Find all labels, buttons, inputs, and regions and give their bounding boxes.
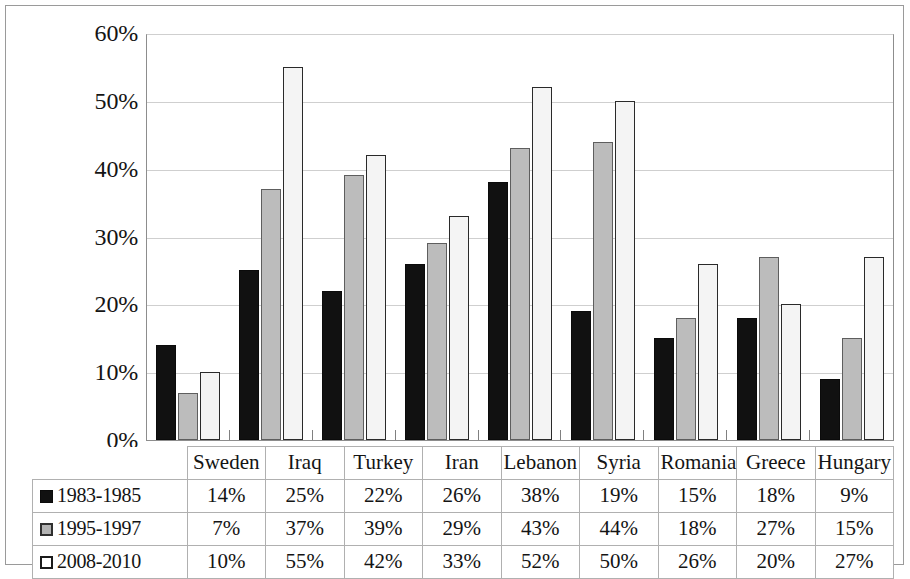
chart-figure: 60%50%40%30%20%10%0% SwedenIraqTurkeyIra… [5, 5, 904, 565]
table-column-header: Romania [658, 447, 737, 480]
table-cell: 25% [266, 480, 345, 513]
table-cell: 10% [187, 546, 266, 579]
bar [615, 101, 635, 440]
bar [571, 311, 591, 440]
legend-swatch-icon [40, 556, 53, 569]
bar [532, 87, 552, 440]
bars-layer [147, 35, 893, 440]
legend-entry: 2008-2010 [33, 546, 188, 579]
table-cell: 39% [344, 513, 423, 546]
table-corner-cell [33, 447, 188, 480]
table-cell: 9% [815, 480, 894, 513]
bar [366, 155, 386, 440]
bar [405, 264, 425, 440]
bar [322, 291, 342, 440]
y-axis-tick-label: 60% [95, 21, 138, 45]
legend-label: 2008-2010 [57, 550, 141, 572]
table-cell: 27% [737, 513, 816, 546]
bar-group [313, 35, 396, 440]
y-axis-tick-label: 30% [95, 225, 138, 249]
table-cell: 44% [580, 513, 659, 546]
bar-group [727, 35, 810, 440]
legend-entry: 1995-1997 [33, 513, 188, 546]
table-row: 1995-19977%37%39%29%43%44%18%27%15% [33, 513, 894, 546]
table-column-header: Iran [423, 447, 502, 480]
bar-group [396, 35, 479, 440]
table-column-header: Greece [737, 447, 816, 480]
y-axis-tick-label: 40% [95, 157, 138, 181]
table-cell: 15% [815, 513, 894, 546]
data-table: SwedenIraqTurkeyIranLebanonSyriaRomaniaG… [32, 446, 894, 579]
plot-region: 60%50%40%30%20%10%0% [6, 6, 903, 444]
bar [156, 345, 176, 440]
bar-group [561, 35, 644, 440]
legend-label: 1995-1997 [57, 517, 141, 539]
bar [510, 148, 530, 440]
bar [676, 318, 696, 440]
bar [593, 142, 613, 440]
table-cell: 14% [187, 480, 266, 513]
bar [261, 189, 281, 440]
table-cell: 50% [580, 546, 659, 579]
bar [781, 304, 801, 440]
y-axis-tick-label: 10% [95, 360, 138, 384]
y-axis-tick-label: 20% [95, 292, 138, 316]
table-column-header: Syria [580, 447, 659, 480]
bar [178, 393, 198, 440]
table-cell: 18% [658, 513, 737, 546]
table-cell: 38% [501, 480, 580, 513]
table-cell: 26% [658, 546, 737, 579]
bar-group [479, 35, 562, 440]
table-cell: 43% [501, 513, 580, 546]
bar-group [230, 35, 313, 440]
table-cell: 33% [423, 546, 502, 579]
table-cell: 27% [815, 546, 894, 579]
table-header-row: SwedenIraqTurkeyIranLebanonSyriaRomaniaG… [33, 447, 894, 480]
bar [239, 270, 259, 440]
table-column-header: Iraq [266, 447, 345, 480]
table-cell: 42% [344, 546, 423, 579]
bar [698, 264, 718, 440]
table-cell: 18% [737, 480, 816, 513]
legend-entry: 1983-1985 [33, 480, 188, 513]
bar [200, 372, 220, 440]
table-cell: 26% [423, 480, 502, 513]
table-cell: 20% [737, 546, 816, 579]
table-cell: 19% [580, 480, 659, 513]
bar [654, 338, 674, 440]
bar [737, 318, 757, 440]
table-cell: 29% [423, 513, 502, 546]
bar-group [644, 35, 727, 440]
legend-swatch-icon [40, 490, 53, 503]
bar [283, 67, 303, 440]
bar [488, 182, 508, 440]
bar [842, 338, 862, 440]
table-cell: 7% [187, 513, 266, 546]
table-cell: 55% [266, 546, 345, 579]
bar [864, 257, 884, 440]
bar [759, 257, 779, 440]
table-cell: 37% [266, 513, 345, 546]
legend-swatch-icon [40, 523, 53, 536]
table-column-header: Turkey [344, 447, 423, 480]
bar [449, 216, 469, 440]
table-cell: 52% [501, 546, 580, 579]
table-column-header: Lebanon [501, 447, 580, 480]
table-column-header: Hungary [815, 447, 894, 480]
bar-group [147, 35, 230, 440]
table-row: 1983-198514%25%22%26%38%19%15%18%9% [33, 480, 894, 513]
plot-area [146, 34, 894, 441]
legend-label: 1983-1985 [57, 484, 141, 506]
table-cell: 22% [344, 480, 423, 513]
bar-group [810, 35, 893, 440]
y-axis: 60%50%40%30%20%10%0% [6, 6, 144, 444]
bar [344, 175, 364, 440]
y-axis-tick-label: 50% [95, 89, 138, 113]
table-cell: 15% [658, 480, 737, 513]
table-column-header: Sweden [187, 447, 266, 480]
bar [820, 379, 840, 440]
table-row: 2008-201010%55%42%33%52%50%26%20%27% [33, 546, 894, 579]
bar [427, 243, 447, 440]
